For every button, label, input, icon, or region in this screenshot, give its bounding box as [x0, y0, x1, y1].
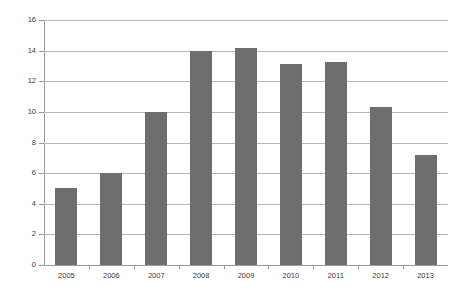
x-axis-label: 2006 — [89, 272, 133, 280]
plot-area — [44, 20, 448, 265]
x-axis-label: 2007 — [134, 272, 178, 280]
x-axis-label: 2008 — [179, 272, 223, 280]
x-tick — [358, 265, 359, 269]
bar — [280, 64, 302, 265]
x-tick — [89, 265, 90, 269]
y-axis-label: 12 — [0, 77, 36, 85]
bar — [145, 112, 167, 265]
bar — [325, 62, 347, 265]
x-tick — [224, 265, 225, 269]
x-axis-label: 2012 — [359, 272, 403, 280]
x-tick — [179, 265, 180, 269]
x-tick — [268, 265, 269, 269]
y-axis-label: 16 — [0, 16, 36, 24]
y-axis-label: 14 — [0, 47, 36, 55]
bar — [100, 173, 122, 265]
bar — [370, 107, 392, 265]
bar — [415, 155, 437, 265]
x-axis-label: 2009 — [224, 272, 268, 280]
bar — [55, 188, 77, 265]
y-axis-label: 0 — [0, 261, 36, 269]
x-tick — [313, 265, 314, 269]
x-axis-label: 2010 — [269, 272, 313, 280]
y-axis-label: 2 — [0, 230, 36, 238]
y-axis-label: 6 — [0, 169, 36, 177]
gridline-0 — [44, 265, 448, 266]
bar — [190, 51, 212, 265]
y-axis-label: 4 — [0, 200, 36, 208]
bars-layer — [44, 20, 448, 265]
x-axis-label: 2013 — [404, 272, 448, 280]
x-tick — [134, 265, 135, 269]
y-axis-label: 10 — [0, 108, 36, 116]
x-axis-label: 2005 — [44, 272, 88, 280]
y-axis-label: 8 — [0, 139, 36, 147]
x-tick — [403, 265, 404, 269]
bar — [235, 48, 257, 265]
bar-chart: 0246810121416 20052006200720082009201020… — [0, 0, 471, 300]
x-axis-label: 2011 — [314, 272, 358, 280]
